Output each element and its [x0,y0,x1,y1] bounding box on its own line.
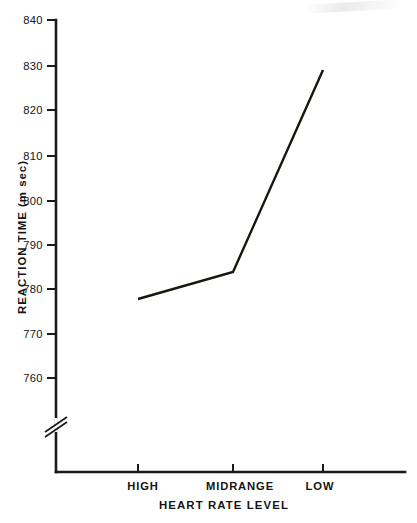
y-axis-title: REACTION TIME (m sec) [16,160,28,314]
y-tick-label-760: 760 [23,372,43,384]
x-axis-title: HEART RATE LEVEL [159,499,289,511]
x-tick-label-high: HIGH [127,480,159,492]
chart-figure: 840 830 820 810 800 790 780 770 760 HIGH… [0,0,417,523]
y-tick-label-770: 770 [23,328,43,340]
data-series-line [138,70,323,299]
x-tick-label-low: LOW [306,480,335,492]
line-chart: 840 830 820 810 800 790 780 770 760 HIGH… [0,0,417,523]
y-tick-label-830: 830 [23,60,43,72]
y-tick-label-820: 820 [23,104,43,116]
y-tick-label-840: 840 [23,14,43,26]
x-tick-label-midrange: MIDRANGE [206,480,274,492]
